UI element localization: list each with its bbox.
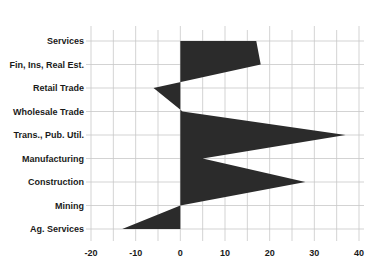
- x-tick-label: -20: [84, 248, 97, 258]
- category-label: Fin, Ins, Real Est.: [9, 60, 84, 70]
- category-label: Ag. Services: [30, 224, 84, 234]
- x-tick-label: -10: [129, 248, 142, 258]
- category-label: Manufacturing: [22, 154, 84, 164]
- x-axis-tick-labels: -20-10010203040: [84, 248, 364, 258]
- x-tick-label: 20: [265, 248, 275, 258]
- category-axis-labels: ServicesFin, Ins, Real Est.Retail TradeW…: [9, 36, 84, 234]
- category-label: Construction: [28, 177, 84, 187]
- x-tick-label: 30: [309, 248, 319, 258]
- category-label: Retail Trade: [33, 83, 84, 93]
- x-tick-label: 40: [354, 248, 364, 258]
- category-label: Trans., Pub. Util.: [13, 130, 84, 140]
- category-label: Wholesale Trade: [13, 107, 84, 117]
- category-label: Mining: [55, 201, 84, 211]
- category-label: Services: [47, 36, 84, 46]
- x-tick-label: 10: [220, 248, 230, 258]
- x-tick-label: 0: [178, 248, 183, 258]
- chart: ServicesFin, Ins, Real Est.Retail TradeW…: [0, 0, 380, 279]
